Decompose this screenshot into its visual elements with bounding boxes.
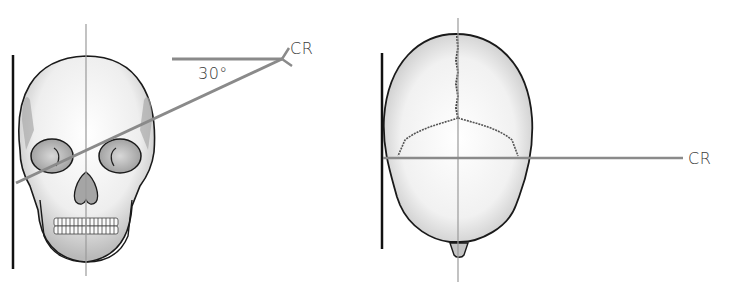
cr-label-right: CR [688,151,711,167]
left-panel [13,24,292,276]
right-panel [382,18,683,282]
orbit-left [99,139,141,173]
occipital-protuberance [450,243,468,257]
angle-label: 30° [198,66,228,82]
orbit-right [31,139,73,173]
diagram-canvas [0,0,732,294]
cr-label-left: CR [290,41,313,57]
